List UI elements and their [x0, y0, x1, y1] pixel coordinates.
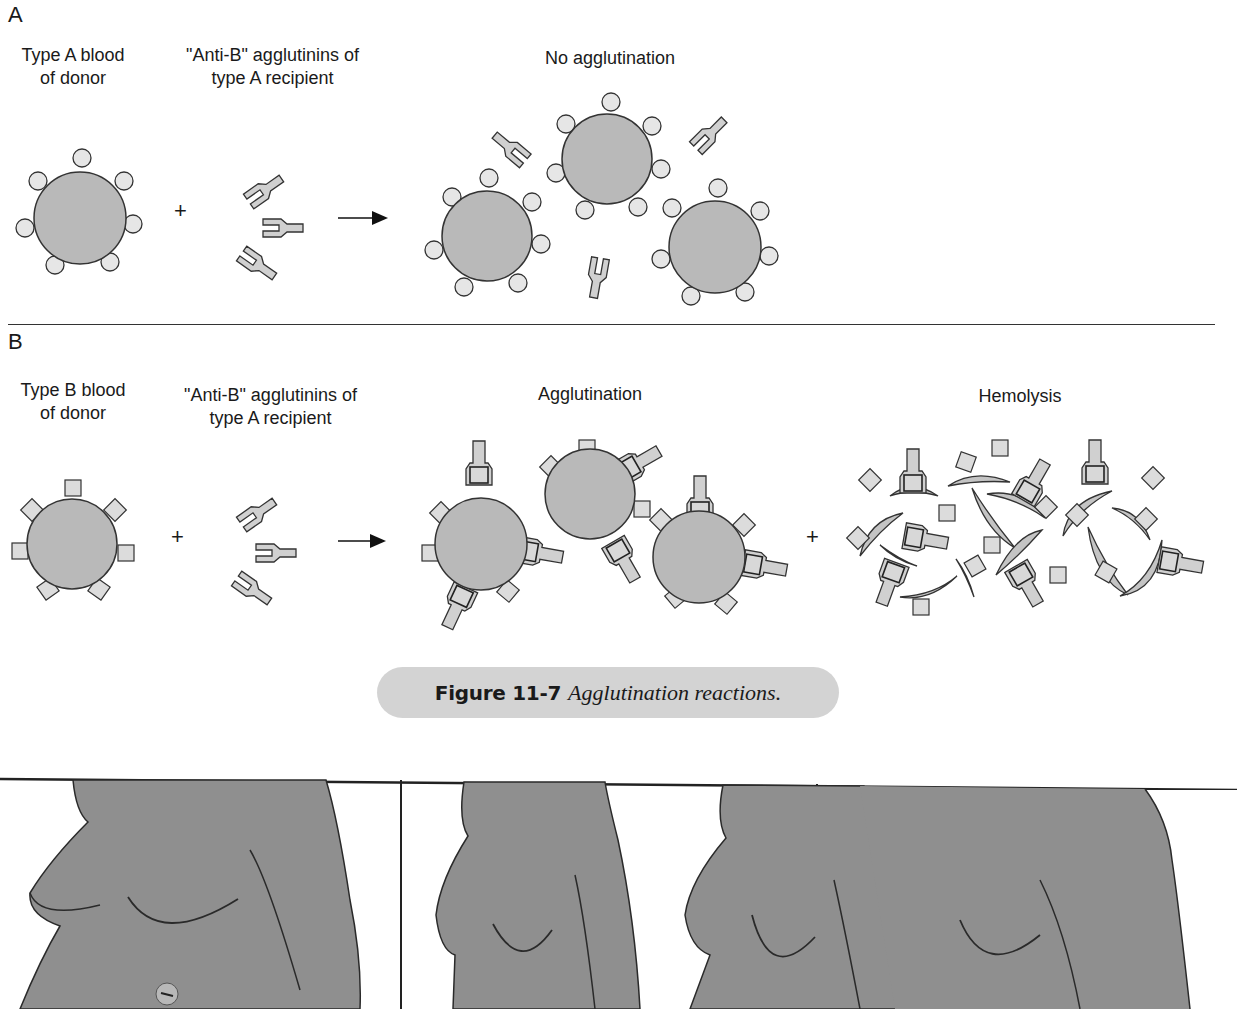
- panel-b-graphics: [12, 440, 1205, 633]
- panel-a-graphics: [16, 93, 778, 305]
- figure-number: Figure 11-7: [435, 681, 561, 705]
- figure-caption: Figure 11-7 Agglutination reactions.: [377, 667, 839, 718]
- type-a-red-cell: [16, 149, 142, 274]
- diagram-graphics: [0, 0, 1237, 1009]
- torso-illustrations: [0, 779, 1237, 1009]
- figure-title: Agglutination reactions.: [568, 680, 781, 706]
